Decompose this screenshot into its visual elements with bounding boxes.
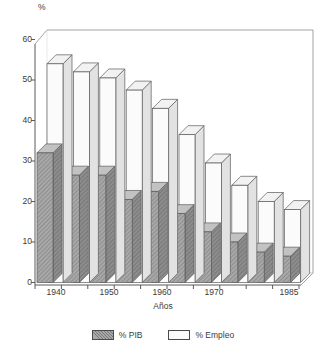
chart-container: % 60 50 40 30 20 10 0	[0, 0, 326, 354]
legend-item-pib: % PIB	[92, 330, 143, 340]
legend-label-empleo: % Empleo	[195, 330, 234, 340]
x-tick-label-1960: 1960	[145, 288, 179, 297]
x-tick-label-1940: 1940	[39, 288, 73, 297]
legend-swatch-empleo-icon	[168, 330, 190, 340]
legend-swatch-pib-icon	[92, 330, 114, 340]
bars-layer	[37, 55, 310, 283]
y-axis-ticks	[31, 40, 35, 283]
x-tick-label-1985: 1985	[272, 288, 306, 297]
legend-item-empleo: % Empleo	[168, 330, 234, 340]
x-tick-label-1970: 1970	[197, 288, 231, 297]
chart-legend: % PIB % Empleo	[0, 330, 326, 340]
legend-label-pib: % PIB	[119, 330, 143, 340]
x-tick-label-1950: 1950	[92, 288, 126, 297]
bar-pib-1940	[37, 144, 62, 283]
x-axis-title: Años	[0, 301, 326, 311]
